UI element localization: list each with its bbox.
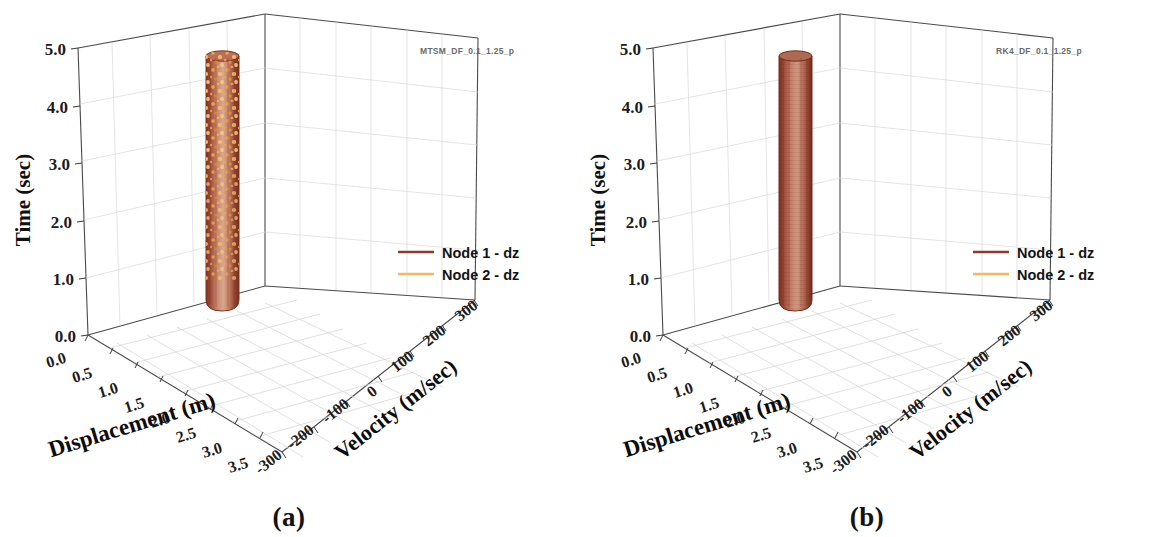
- tick-disp-0: 0.0: [44, 349, 68, 371]
- tick-disp-1: 0.5: [70, 364, 94, 386]
- tick-time-5: 5.0: [620, 40, 641, 59]
- legend-b: Node 1 - dz Node 2 - dz: [973, 245, 1094, 283]
- tick-time-4: 4.0: [47, 98, 68, 117]
- tick-vel-2: -100: [893, 395, 927, 426]
- panel-a: 5.0 4.0 3.0 2.0 1.0 0.0 Time (sec): [0, 0, 578, 537]
- tick-vel-1: -200: [283, 421, 317, 452]
- tick-vel-5: 200: [419, 321, 448, 349]
- time-tick-labels-b: 5.0 4.0 3.0 2.0 1.0 0.0: [620, 40, 651, 346]
- tick-time-0: 0.0: [55, 327, 76, 346]
- legend-label-node1-a: Node 1 - dz: [442, 245, 519, 261]
- legend-label-node2-a: Node 2 - dz: [442, 267, 519, 283]
- tick-vel-3: 0: [363, 382, 380, 400]
- tick-disp-5: 2.5: [174, 424, 198, 446]
- axis-title-time: Time (sec): [586, 154, 610, 246]
- legend-label-node1-b: Node 1 - dz: [1017, 245, 1094, 261]
- axis-title-time: Time (sec): [11, 154, 35, 246]
- panel-b: 5.0 4.0 3.0 2.0 1.0 0.0 Time (sec) 0.0: [578, 0, 1156, 537]
- tick-vel-2: -100: [318, 395, 352, 426]
- tick-vel-6: 300: [1026, 296, 1055, 324]
- panel-caption-b: (b): [578, 502, 1156, 533]
- tick-vel-1: -200: [858, 421, 892, 452]
- dataset-label-b: RK4_DF_0.1_1.25_p: [996, 46, 1082, 56]
- panel-caption-a: (a): [0, 502, 578, 533]
- tick-time-4: 4.0: [622, 98, 643, 117]
- tick-time-3: 3.0: [49, 155, 70, 174]
- tick-disp-0: 0.0: [619, 349, 643, 371]
- plot-b: 5.0 4.0 3.0 2.0 1.0 0.0 Time (sec) 0.0: [578, 0, 1156, 500]
- time-tick-labels-a: 5.0 4.0 3.0 2.0 1.0 0.0: [45, 40, 76, 346]
- node2-noise-overlay-a: [204, 50, 242, 280]
- tick-time-2: 2.0: [51, 213, 72, 232]
- tick-time-5: 5.0: [45, 40, 66, 59]
- tick-vel-4: 100: [387, 347, 416, 375]
- dataset-label-a: MTSM_DF_0.1_1.25_p: [420, 46, 514, 56]
- tick-time-1: 1.0: [53, 270, 74, 289]
- tick-disp-1: 0.5: [645, 364, 669, 386]
- tick-disp-6: 3.0: [200, 439, 224, 461]
- tick-disp-7: 3.5: [801, 454, 825, 476]
- tick-time-0: 0.0: [630, 327, 651, 346]
- tick-disp-2: 1.0: [671, 379, 695, 401]
- tick-vel-3: 0: [938, 382, 955, 400]
- tick-disp-6: 3.0: [775, 439, 799, 461]
- tick-disp-7: 3.5: [226, 454, 250, 476]
- tick-time-2: 2.0: [626, 213, 647, 232]
- legend-a: Node 1 - dz Node 2 - dz: [398, 245, 519, 283]
- tick-vel-5: 200: [994, 321, 1023, 349]
- tick-vel-4: 100: [962, 347, 991, 375]
- tick-vel-6: 300: [451, 296, 480, 324]
- trajectory-tube-b: [777, 51, 815, 314]
- plot-a: 5.0 4.0 3.0 2.0 1.0 0.0 Time (sec): [0, 0, 578, 500]
- tick-time-1: 1.0: [628, 270, 649, 289]
- legend-label-node2-b: Node 2 - dz: [1017, 267, 1094, 283]
- tick-time-3: 3.0: [624, 155, 645, 174]
- tick-disp-2: 1.0: [96, 379, 120, 401]
- tick-disp-5: 2.5: [749, 424, 773, 446]
- figure-two-panel-3d-phase-plots: 5.0 4.0 3.0 2.0 1.0 0.0 Time (sec): [0, 0, 1156, 537]
- trajectory-tube-a: [204, 50, 242, 311]
